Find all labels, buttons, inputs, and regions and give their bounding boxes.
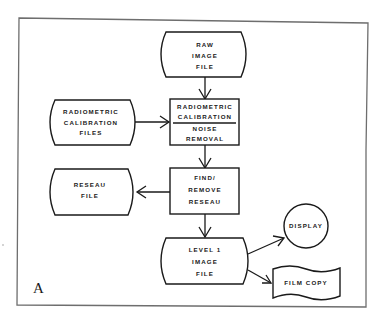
node-reseau-file: RESEAU FILE	[50, 169, 133, 215]
panel-label: A	[33, 280, 44, 296]
node-label: FILM COPY	[284, 279, 328, 286]
node-label: DISPLAY	[289, 222, 323, 229]
node-label: RESEAU	[189, 198, 221, 205]
node-label: LEVEL 1	[189, 246, 222, 253]
node-find-remove-reseau: FIND/ REMOVE RESEAU	[170, 168, 239, 214]
node-label: CALIBRATION	[178, 113, 232, 120]
node-label: FILE	[196, 270, 214, 277]
node-display: DISPLAY	[284, 204, 328, 248]
node-film-copy: FILM COPY	[273, 266, 340, 300]
flowchart-diagram: RAW IMAGE FILE RADIOMETRIC CALIBRATION F…	[0, 0, 383, 321]
node-label: RESEAU	[74, 181, 106, 188]
scan-speck	[2, 244, 3, 245]
node-label: RAW	[196, 41, 214, 48]
node-label: NOISE	[193, 125, 218, 132]
node-label: IMAGE	[192, 52, 218, 59]
node-label: REMOVAL	[186, 135, 224, 142]
node-label: IMAGE	[192, 258, 218, 265]
node-label: CALIBRATION	[64, 119, 118, 126]
node-calibration-process: RADIOMETRIC CALIBRATION NOISE REMOVAL	[170, 99, 239, 145]
node-raw-image-file: RAW IMAGE FILE	[161, 32, 246, 77]
node-label: REMOVE	[188, 186, 221, 193]
node-label: FILE	[81, 192, 99, 199]
node-label: RADIOMETRIC	[63, 108, 119, 115]
node-label: FILES	[79, 129, 102, 136]
node-label: FIND/	[194, 174, 216, 181]
node-radiometric-calibration-files: RADIOMETRIC CALIBRATION FILES	[50, 100, 135, 145]
node-label: RADIOMETRIC	[177, 103, 233, 110]
node-level1-image-file: LEVEL 1 IMAGE FILE	[161, 238, 248, 284]
node-label: FILE	[196, 63, 214, 70]
